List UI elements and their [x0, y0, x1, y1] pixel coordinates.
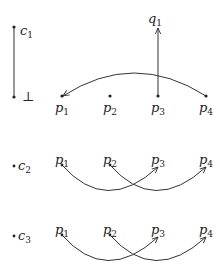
p4-label: p4 — [199, 152, 213, 169]
edge-p2-p4 — [110, 235, 206, 261]
p1-label: p1 — [55, 100, 69, 117]
p2-node — [108, 94, 111, 97]
p3-node — [156, 94, 159, 97]
c2-node — [13, 165, 16, 168]
edge-p1-p3 — [62, 235, 158, 261]
c1-node — [12, 25, 15, 28]
p1-label: p1 — [55, 222, 69, 239]
p4-label: p4 — [199, 100, 213, 117]
c1-label: c1 — [20, 23, 33, 40]
c2-label: c2 — [18, 158, 31, 175]
p3-label: p3 — [151, 100, 165, 117]
p4-label: p4 — [199, 222, 213, 239]
bottom-label: ⊥ — [22, 89, 34, 104]
p3-label: p3 — [151, 222, 165, 239]
p2-label: p2 — [103, 222, 117, 239]
edge-p1-p3 — [62, 165, 158, 191]
row-3: c3 p1 p2 p3 p4 — [13, 222, 214, 261]
c3-label: c3 — [18, 228, 31, 245]
p2-label: p2 — [103, 100, 117, 117]
p1-node — [60, 94, 63, 97]
p2-label: p2 — [103, 152, 117, 169]
bottom-node — [12, 95, 15, 98]
row-2: c2 p1 p2 p3 p4 — [13, 152, 214, 191]
order-diagram: c1 ⊥ q1 p1 p2 p3 p4 c2 p1 p2 p3 p4 c3 — [0, 0, 220, 266]
p4-node — [204, 94, 207, 97]
p3-label: p3 — [151, 152, 165, 169]
c3-node — [13, 235, 16, 238]
edge-p2-p4 — [110, 165, 206, 191]
edge-p4-p1 — [63, 73, 206, 96]
q1-label: q1 — [148, 11, 162, 28]
p1-label: p1 — [55, 152, 69, 169]
row-1: c1 ⊥ q1 p1 p2 p3 p4 — [12, 11, 213, 117]
